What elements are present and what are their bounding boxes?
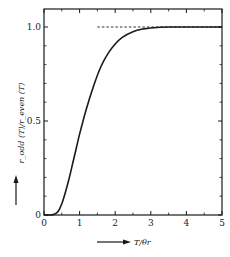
y-tick-label: 0.5 (27, 116, 42, 126)
y-tick-label: 0 (35, 210, 41, 220)
x-tick-label: 1 (77, 218, 83, 228)
x-tick-label: 3 (148, 218, 154, 228)
x-tick-label: 5 (219, 218, 225, 228)
x-tick-label: 2 (112, 218, 118, 228)
ratio-curve (44, 27, 222, 215)
y-axis-label: r_odd (T)/r_even (T) (17, 83, 26, 164)
x-tick-label: 4 (184, 218, 190, 228)
x-axis-label: T/θr (134, 238, 152, 247)
tick-labels: 01234500.51.0 (27, 22, 225, 228)
x-axis-arrow-icon (97, 240, 131, 245)
data-series (44, 27, 222, 215)
y-axis-label-text: r_odd (T)/r_even (T) (17, 83, 26, 164)
chart: 01234500.51.0 r_odd (T)/r_even (T) T/θr (0, 0, 230, 257)
plot-frame (44, 9, 222, 215)
x-tick-label: 0 (41, 218, 47, 228)
y-tick-label: 1.0 (27, 22, 42, 32)
y-axis-arrow-icon (14, 175, 19, 205)
axis-ticks (44, 9, 222, 215)
